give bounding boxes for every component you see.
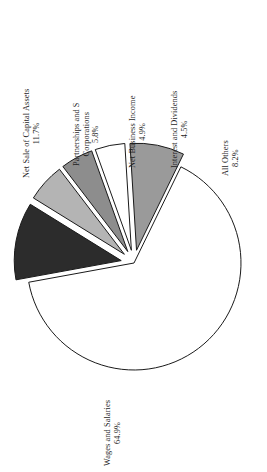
slice-label-percent: 4.9% — [138, 96, 148, 168]
slice-label-percent: 11.7% — [32, 89, 42, 178]
slice-label-text: Wages and Salaries — [103, 400, 113, 466]
slice-label-percent: 4.5% — [180, 91, 190, 168]
slice-label-partnerships-and-s-corporations: Partnerships and S Corporations 5.8% — [72, 102, 101, 166]
slice-label-percent: 64.9% — [113, 400, 123, 466]
slice-label-text: All Others — [221, 140, 231, 176]
slice-label-percent: 8.2% — [231, 140, 241, 176]
slice-label-text: Partnerships and S — [72, 102, 82, 166]
slice-label-text: Interest and Dividends — [170, 91, 180, 168]
slice-label-net-sale-of-capital-assets: Net Sale of Capital Assets 11.7% — [22, 89, 41, 178]
pie-chart-graphic — [0, 0, 267, 472]
slice-label-interest-and-dividends: Interest and Dividends 4.5% — [170, 91, 189, 168]
slice-label-wages-and-salaries: Wages and Salaries 64.9% — [103, 400, 122, 466]
slice-label-percent: 5.8% — [91, 102, 101, 166]
slice-label-all-others: All Others 8.2% — [221, 140, 240, 176]
slice-label-net-business-income: Net Business Income 4.9% — [128, 96, 147, 168]
slice-label-text: Net Sale of Capital Assets — [22, 89, 32, 178]
slice-label-text: Net Business Income — [128, 96, 138, 168]
slice-label-text-line2: Corporations — [82, 102, 92, 166]
pie-chart: Net Sale of Capital Assets 11.7% Partner… — [0, 0, 267, 472]
